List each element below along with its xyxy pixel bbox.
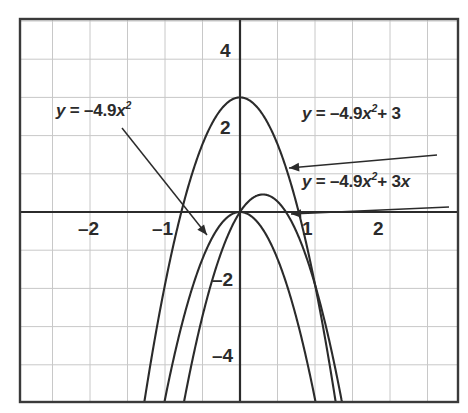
equation-suffix: + 3	[377, 104, 401, 123]
parabola-family-figure: –2 –1 1 2 4 2 –2 –4 y = –4.9x2 y = –4.9x…	[0, 0, 468, 413]
equation-variable: x	[362, 104, 371, 123]
equation-equals-sign: =	[65, 101, 84, 120]
x-tick-label--1: –1	[152, 218, 173, 240]
equation-coefficient: –4.9	[330, 172, 362, 191]
equation-variable: x	[401, 172, 410, 191]
equation-label-neg49x2-plus-3x: y = –4.9x2+ 3x	[302, 170, 410, 192]
y-tick-label-4: 4	[220, 40, 231, 62]
x-tick-label-2: 2	[373, 218, 384, 240]
x-tick-label-1: 1	[302, 218, 313, 240]
equation-coefficient: –4.9	[330, 104, 362, 123]
x-tick-label--2: –2	[78, 218, 99, 240]
equation-exponent: 2	[126, 99, 132, 111]
plot-canvas	[0, 0, 468, 413]
equation-equals-sign: =	[311, 104, 330, 123]
y-tick-label-2: 2	[220, 117, 231, 139]
equation-label-neg49x2: y = –4.9x2	[56, 99, 131, 121]
equation-lhs: y	[302, 172, 311, 191]
equation-suffix: + 3	[377, 172, 401, 191]
y-tick-label--4: –4	[212, 345, 233, 367]
equation-lhs: y	[56, 101, 65, 120]
equation-variable: x	[362, 172, 371, 191]
equation-coefficient: –4.9	[84, 101, 116, 120]
equation-variable: x	[116, 101, 125, 120]
equation-label-neg49x2-plus-3: y = –4.9x2+ 3	[302, 102, 401, 124]
equation-equals-sign: =	[311, 172, 330, 191]
equation-lhs: y	[302, 104, 311, 123]
y-tick-label--2: –2	[212, 269, 233, 291]
